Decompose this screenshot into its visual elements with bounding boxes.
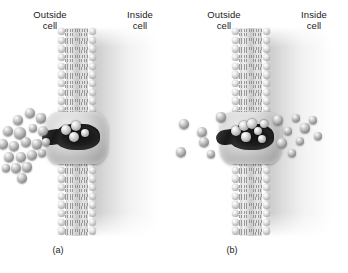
solute-molecule-outside (36, 113, 45, 122)
lipid-tail (79, 85, 89, 88)
lipid-tail (253, 67, 263, 70)
lipid-tail (65, 50, 75, 53)
solute-molecule-inside (296, 137, 305, 146)
lipid-head (263, 80, 270, 87)
lipid-tail (253, 102, 263, 105)
solute-molecule-outside (13, 115, 23, 125)
lipid-head (89, 193, 96, 200)
lipid-head (89, 63, 96, 70)
solute-molecule-outside (17, 173, 27, 183)
lipid-tail (65, 76, 75, 79)
lipid-tail (65, 41, 75, 44)
lipid-tail (253, 189, 263, 192)
solute-molecule-outside (29, 124, 38, 133)
lipid-tail (79, 76, 89, 79)
lipid-tail (79, 206, 89, 209)
lipid-head (263, 37, 270, 44)
lipid-tail (253, 76, 263, 79)
lipid-head (263, 210, 270, 217)
solute-molecule-in-pore (260, 120, 268, 128)
solute-molecule-inside (292, 114, 301, 123)
lipid-head (263, 71, 270, 78)
lipid-tail (65, 171, 75, 174)
lipid-head (263, 97, 270, 104)
panel-b: Outside cell Inside cell (b) (174, 0, 348, 273)
solute-molecule-inside (277, 138, 287, 148)
solute-molecule-inside (288, 149, 296, 157)
lipid-tail (253, 197, 263, 200)
panel-a: Outside cell Inside cell (a) (0, 0, 174, 273)
membrane-transport-figure: Outside cell Inside cell (a) Outside cel… (0, 0, 348, 273)
lipid-tail (253, 93, 263, 96)
lipid-tail (239, 50, 249, 53)
solute-molecule-outside (21, 137, 31, 147)
lipid-tail (239, 215, 249, 218)
lipid-tail (79, 102, 89, 105)
lipid-head (263, 89, 270, 96)
lipid-head (89, 71, 96, 78)
lipid-tail (253, 41, 263, 44)
lipid-head (89, 184, 96, 191)
lipid-head (89, 210, 96, 217)
lipid-tail (79, 50, 89, 53)
lipid-head (89, 89, 96, 96)
lipid-tail (79, 189, 89, 192)
solute-molecule-outside (207, 150, 216, 159)
lipid-tail (65, 59, 75, 62)
lipid-tail (239, 93, 249, 96)
lipid-tail (239, 223, 249, 226)
solute-molecule-outside (9, 141, 20, 152)
lipid-head (263, 184, 270, 191)
solute-molecule-inside (284, 127, 293, 136)
solute-molecule-outside (176, 147, 186, 157)
lipid-tail (253, 180, 263, 183)
lipid-head (89, 54, 96, 61)
lipid-head (263, 28, 270, 35)
solute-molecule-outside (0, 139, 8, 149)
lipid-head (89, 45, 96, 52)
solute-molecule-outside (216, 112, 225, 121)
solute-molecule-outside (199, 137, 209, 147)
label-inside-cell-a: Inside cell (112, 9, 168, 31)
lipid-tail (253, 206, 263, 209)
panel-caption-b: (b) (212, 245, 252, 255)
lipid-tail (65, 180, 75, 183)
lipid-tail (79, 33, 89, 36)
lipid-head (263, 219, 270, 226)
lipid-tail (79, 67, 89, 70)
lipid-tail (65, 189, 75, 192)
lipid-tail (79, 180, 89, 183)
lipid-head (89, 37, 96, 44)
lipid-tail (65, 93, 75, 96)
lipid-head (89, 167, 96, 174)
solute-molecule-outside (4, 152, 14, 162)
lipid-tail (79, 93, 89, 96)
lipid-head (263, 201, 270, 208)
lipid-tail (65, 223, 75, 226)
lipid-tail (65, 197, 75, 200)
lipid-tail (239, 206, 249, 209)
lipid-tail (65, 215, 75, 218)
lipid-tail (253, 215, 263, 218)
solute-molecule-outside (16, 152, 26, 162)
lipid-head (89, 97, 96, 104)
solute-molecule-inside (314, 132, 323, 141)
solute-molecule-outside (179, 119, 189, 129)
panel-caption-a: (a) (38, 245, 78, 255)
lipid-head (263, 167, 270, 174)
lipid-head (263, 227, 270, 234)
lipid-tail (253, 232, 263, 235)
solute-molecule-outside (197, 127, 207, 137)
lipid-tail (239, 67, 249, 70)
lipid-tail (239, 33, 249, 36)
lipid-tail (79, 59, 89, 62)
lipid-tail (239, 180, 249, 183)
lipid-tail (253, 50, 263, 53)
lipid-head (89, 219, 96, 226)
lipid-tail (239, 59, 249, 62)
lipid-tail (65, 33, 75, 36)
lipid-tail (239, 85, 249, 88)
lipid-head (89, 201, 96, 208)
solute-molecule-outside (32, 139, 41, 148)
lipid-tail (253, 171, 263, 174)
